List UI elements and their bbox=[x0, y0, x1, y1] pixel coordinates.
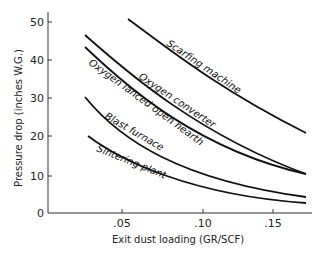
y-tick-label: 50 bbox=[30, 16, 44, 29]
y-tick-label: 0 bbox=[37, 207, 44, 220]
y-tick-label: 10 bbox=[30, 170, 44, 183]
x-tick-label: .15 bbox=[264, 217, 282, 230]
curve-sintering-plant bbox=[88, 136, 306, 203]
chart: 50 40 30 20 10 0 Pressure drop (inches W… bbox=[0, 0, 326, 260]
x-tick-label: .05 bbox=[113, 217, 131, 230]
y-tick-label: 20 bbox=[30, 130, 44, 143]
x-axis-label: Exit dust loading (GR/SCF) bbox=[112, 234, 244, 245]
y-axis-label: Pressure drop (inches W.G.) bbox=[13, 49, 24, 187]
label-scarfing-machine: Scarfing machine bbox=[165, 38, 244, 96]
label-blast-furnace: Blast furnace bbox=[103, 110, 166, 153]
y-tick-label: 40 bbox=[30, 54, 44, 67]
y-tick-label: 30 bbox=[30, 92, 44, 105]
y-axis: 50 40 30 20 10 0 Pressure drop (inches W… bbox=[13, 12, 52, 220]
x-tick-label: .10 bbox=[194, 217, 212, 230]
x-axis: .05 .10 .15 Exit dust loading (GR/SCF) bbox=[48, 209, 312, 245]
